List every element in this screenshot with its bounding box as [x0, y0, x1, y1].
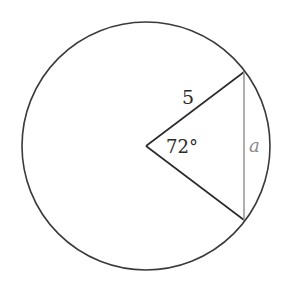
- radius-label: 5: [182, 86, 194, 108]
- angle-label: 72°: [166, 136, 198, 157]
- chord-label: a: [249, 135, 260, 156]
- circle-diagram: 5 72° a: [0, 0, 285, 296]
- radius-upper: [146, 72, 244, 146]
- radius-lower: [146, 146, 244, 220]
